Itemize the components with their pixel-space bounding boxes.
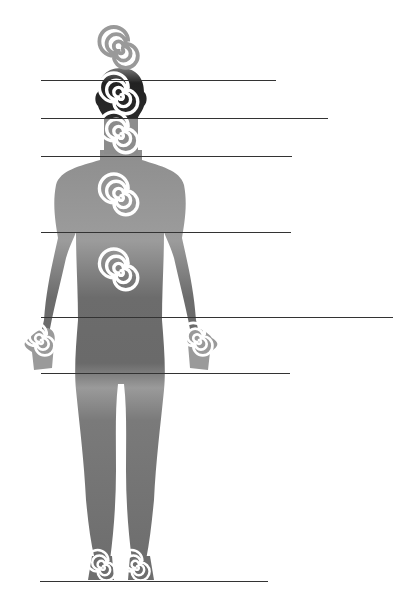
guide-line [41,80,276,81]
guide-line [41,317,393,318]
guide-line [41,156,292,157]
guide-line [41,118,328,119]
body-diagram [0,0,417,607]
body-silhouette [0,0,417,607]
guide-line [41,373,290,374]
guide-line [40,581,268,582]
guide-line [41,232,291,233]
crown-spiral-icon [99,27,137,68]
